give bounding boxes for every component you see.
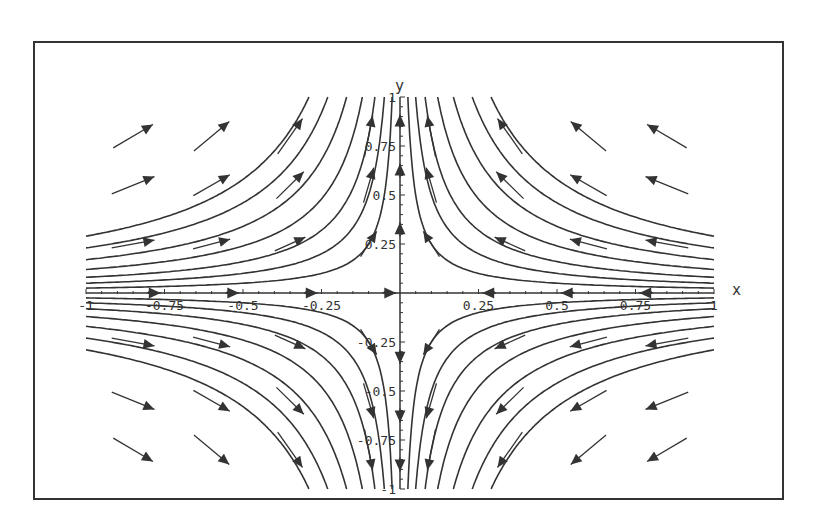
y-tick-label: 0.25 [365,237,396,252]
x-axis-flow-arrow [147,288,161,299]
trajectory-curve [86,303,384,489]
vector-arrow [193,390,229,411]
trajectory-curve [453,97,714,260]
vector-arrow [194,435,229,464]
vector-arrow [194,121,229,150]
x-tick-label: 0.25 [463,298,494,313]
vector-arrow [570,390,606,411]
y-axis-label: y [395,77,404,95]
trajectory-curve [408,298,714,489]
vector-arrow [278,119,303,154]
x-tick-label: 1 [710,298,718,313]
trajectory-curve [86,97,347,260]
y-tick-label: -0.75 [357,433,396,448]
x-axis-label: x [732,281,741,299]
y-tick-label: -0.5 [365,384,396,399]
vector-arrow [570,237,607,249]
vector-arrow [425,116,436,157]
vector-arrow [425,168,437,203]
trajectory-curve [86,97,392,288]
vector-arrow [647,438,687,461]
y-axis-flow-arrow [395,409,406,423]
vector-arrow [497,119,522,154]
vector-arrow [425,429,436,470]
y-axis-flow-arrow [395,222,406,236]
vector-arrow [570,337,607,349]
trajectory-curve [491,97,714,236]
vector-arrow [425,383,437,418]
x-tick-label: -0.75 [145,298,184,313]
y-axis-flow-arrow [395,350,406,364]
trajectory-curve [86,326,347,489]
vector-arrow [571,121,606,150]
vector-arrow [278,432,303,467]
x-axis-flow-arrow [304,288,318,299]
vector-arrow [496,172,523,199]
x-tick-label: -0.25 [302,298,341,313]
x-tick-label: -0.5 [227,298,258,313]
trajectory-curve [86,298,392,489]
vector-arrow [276,172,303,199]
vector-arrow [646,392,689,410]
vector-arrow [113,125,153,148]
x-axis-flow-arrow [225,288,239,299]
vector-arrow [647,125,687,148]
x-axis-flow-arrow [382,288,396,299]
vector-arrow [646,176,689,194]
vector-arrow [112,392,155,410]
trajectory-curve [416,303,714,489]
phase-portrait-plot: -1-0.75-0.5-0.250.250.50.751 10.750.50.2… [0,0,817,531]
y-tick-label: 0.75 [365,139,396,154]
vector-arrow [570,175,606,196]
y-axis-flow-arrow [395,458,406,472]
x-tick-label: 0.5 [545,298,568,313]
trajectory-curve [86,97,384,283]
x-axis-flow-arrow [482,288,496,299]
vector-arrow [193,237,230,249]
x-axis-flow-arrow [561,288,575,299]
vector-arrow [497,432,522,467]
vector-arrow [112,176,155,194]
trajectory-curve [491,350,714,489]
trajectory-curve [86,350,309,489]
trajectory-curve [453,326,714,489]
vector-arrow [193,337,230,349]
y-tick-label: -0.25 [357,335,396,350]
trajectory-curve [86,97,309,236]
x-tick-label: 0.75 [620,298,651,313]
vector-arrow [113,438,153,461]
y-tick-label: 0.5 [373,188,396,203]
vector-arrow [193,175,229,196]
trajectory-curve [408,97,714,288]
vector-arrow [496,387,523,414]
vector-arrow [423,231,439,256]
vector-arrow [571,435,606,464]
y-tick-label: -1 [380,482,396,497]
x-axis-flow-arrow [639,288,653,299]
x-tick-label: -1 [78,298,94,313]
vector-arrow [276,387,303,414]
trajectory-curve [416,97,714,283]
vector-arrow [423,329,439,354]
y-axis-flow-arrow [395,163,406,177]
y-axis-flow-arrow [395,114,406,128]
